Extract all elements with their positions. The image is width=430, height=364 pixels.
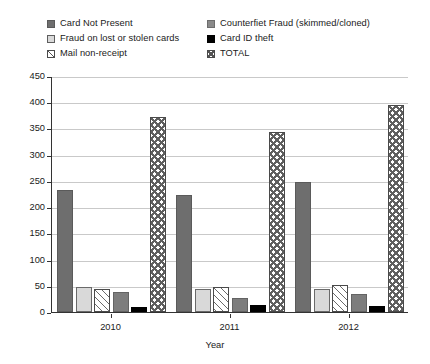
legend-item-card-not-present: Card Not Present (47, 16, 207, 31)
x-axis-title: Year (0, 341, 430, 350)
legend-swatch-card-not-present-icon (47, 20, 55, 28)
legend-label-card-id-theft: Card ID theft (220, 34, 273, 43)
x-axis-tick-label: 2011 (200, 323, 260, 332)
legend-item-card-id-theft: Card ID theft (207, 31, 407, 46)
x-axis-tick-label: 2010 (81, 323, 141, 332)
bar-card-id-theft (113, 292, 129, 312)
legend-swatch-mail-non-receipt-icon (47, 50, 55, 58)
bar-card-id-theft (232, 298, 248, 312)
gridline (52, 208, 408, 209)
gridline (52, 234, 408, 235)
legend-label-mail-non-receipt: Mail non-receipt (60, 49, 127, 58)
bar-card-not-present (57, 190, 73, 312)
y-axis-tick-label: 350 (11, 124, 45, 133)
x-axis-tick-mark (111, 314, 112, 318)
y-axis-tick-mark (47, 313, 51, 314)
bar-total (388, 105, 404, 312)
x-axis-tick-mark (349, 314, 350, 318)
gridline (52, 261, 408, 262)
y-axis-tick-label: 0 (11, 308, 45, 317)
bar-chart: Card Not Present Counterfiet Fraud (skim… (0, 0, 430, 364)
y-axis-tick-label: 400 (11, 98, 45, 107)
gridline (52, 77, 408, 78)
legend-label-card-not-present: Card Not Present (60, 19, 133, 28)
legend-item-fraud-lost-stolen: Fraud on lost or stolen cards (47, 31, 207, 46)
bar-fraud-lost-stolen (195, 289, 211, 312)
gridline (52, 287, 408, 288)
bar-card-not-present (176, 195, 192, 312)
legend-label-counterfeit-fraud: Counterfiet Fraud (skimmed/cloned) (220, 19, 370, 28)
y-axis-tick-label: 300 (11, 151, 45, 160)
bar-fraud-lost-stolen (76, 287, 92, 312)
legend-label-fraud-lost-stolen: Fraud on lost or stolen cards (60, 34, 179, 43)
y-axis-tick-label: 150 (11, 229, 45, 238)
gridline (52, 103, 408, 104)
legend-item-total: TOTAL (207, 46, 407, 61)
bar-card-id-theft (351, 294, 367, 312)
bar-mail-non-receipt (250, 305, 266, 312)
bar-counterfeit-fraud (94, 289, 110, 312)
bar-total (269, 132, 285, 312)
gridline (52, 129, 408, 130)
y-axis-tick-label: 50 (11, 282, 45, 291)
gridline (52, 182, 408, 183)
bar-mail-non-receipt (369, 306, 385, 312)
x-axis-tick-label: 2012 (319, 323, 379, 332)
legend-swatch-total-icon (207, 50, 215, 58)
x-axis-tick-mark (230, 314, 231, 318)
legend-label-total: TOTAL (220, 49, 249, 58)
chart-legend: Card Not Present Counterfiet Fraud (skim… (47, 16, 407, 61)
y-axis-tick-label: 450 (11, 72, 45, 81)
bar-counterfeit-fraud (332, 285, 348, 312)
bar-counterfeit-fraud (213, 287, 229, 312)
plot-area (51, 77, 408, 313)
gridline (52, 156, 408, 157)
y-axis-tick-label: 100 (11, 256, 45, 265)
legend-swatch-fraud-lost-stolen-icon (47, 35, 55, 43)
y-axis-tick-label: 250 (11, 177, 45, 186)
bar-fraud-lost-stolen (314, 289, 330, 312)
legend-swatch-card-id-theft-icon (207, 35, 215, 43)
legend-swatch-counterfeit-fraud-icon (207, 20, 215, 28)
y-axis-tick-label: 200 (11, 203, 45, 212)
bar-mail-non-receipt (131, 307, 147, 312)
legend-item-mail-non-receipt: Mail non-receipt (47, 46, 207, 61)
legend-item-counterfeit-fraud: Counterfiet Fraud (skimmed/cloned) (207, 16, 407, 31)
bar-total (150, 117, 166, 312)
bar-card-not-present (295, 182, 311, 312)
